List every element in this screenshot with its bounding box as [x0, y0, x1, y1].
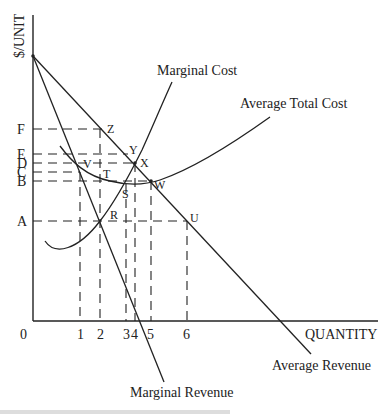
caption-partial [0, 410, 230, 414]
point-label-y: Y [129, 143, 138, 157]
price-label-f: F [17, 122, 25, 137]
intercept-dot [31, 54, 35, 58]
point-label-v: V [83, 157, 92, 171]
x-axis-label: QUANTITY [305, 327, 377, 342]
marginal-revenue-label: Marginal Revenue [130, 385, 234, 400]
average-total-cost-curve [60, 117, 270, 184]
point-label-z: Z [107, 122, 114, 136]
point-x-dot [133, 161, 137, 165]
qty-label-2: 2 [97, 327, 104, 342]
average-revenue-label: Average Revenue [272, 358, 371, 373]
marginal-cost-curve [45, 82, 172, 249]
price-label-b: B [17, 174, 26, 189]
qty-label-1: 1 [77, 327, 84, 342]
y-axis-label: $/UNIT [12, 13, 27, 58]
marginal-cost-label: Marginal Cost [157, 63, 237, 78]
qty-label-3: 3 [123, 327, 130, 342]
average-total-cost-label: Average Total Cost [240, 96, 347, 111]
point-label-u: U [190, 211, 199, 225]
qty-label-4: 4 [131, 327, 138, 342]
point-label-x: X [140, 156, 149, 170]
point-label-w: W [154, 178, 166, 192]
point-label-t: T [103, 167, 111, 181]
qty-label-5: 5 [147, 327, 154, 342]
economics-diagram: $/UNIT QUANTITY 0 F E D C B A 1 2 3 4 5 … [0, 0, 392, 414]
point-label-r: R [110, 208, 118, 222]
origin-label: 0 [20, 327, 27, 342]
point-w-dot [149, 179, 153, 183]
price-label-a: A [17, 214, 28, 229]
point-label-s: S [122, 187, 129, 201]
qty-label-6: 6 [183, 327, 190, 342]
